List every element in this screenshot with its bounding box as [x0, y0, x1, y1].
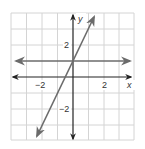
x-axis-label: x [126, 80, 132, 90]
y-tick-label-neg2: −2 [59, 104, 69, 114]
y-axis-label: y [77, 14, 83, 24]
y-tick-label-pos2: 2 [64, 40, 69, 50]
x-tick-label-neg2: −2 [35, 80, 45, 90]
x-tick-label-pos2: 2 [102, 80, 107, 90]
coordinate-graph: y x −2 2 2 −2 [0, 0, 145, 149]
